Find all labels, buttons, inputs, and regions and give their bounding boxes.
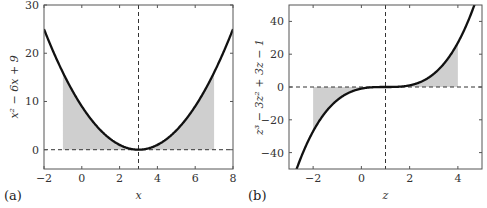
x-tick-label: 4 [454,172,461,185]
panel-label: (a) [4,188,22,203]
panel-a-plot: −2024680102030xx² − 6x + 9(a) [4,0,237,203]
x-tick-label: 8 [230,172,237,185]
y-axis-label: x² − 6x + 9 [8,55,21,118]
y-axis-label: z³ − 3z² + 3z − 1 [253,39,266,136]
y-tick-label: 20 [270,48,284,61]
x-tick-label: −2 [305,172,321,185]
y-tick-label: 0 [277,81,284,94]
x-axis-label: x [135,189,142,202]
panel-b-plot: −2024−40−2002040zz³ − 3z² + 3z − 1(b) [248,0,482,203]
figure: −2024680102030xx² − 6x + 9(a) −2024−40−2… [0,0,487,208]
y-tick-label: 40 [270,15,284,28]
y-tick-label: 20 [25,47,39,60]
y-tick-label: 30 [25,0,39,12]
x-tick-label: −2 [36,172,52,185]
x-tick-label: 2 [116,172,123,185]
y-tick-label: 0 [32,144,39,157]
y-tick-label: 10 [25,95,39,108]
x-tick-label: 4 [154,172,161,185]
x-axis-label: z [382,189,389,202]
x-tick-label: 0 [358,172,365,185]
x-tick-label: 0 [78,172,85,185]
y-tick-label: −40 [261,147,284,160]
x-tick-label: 2 [406,172,413,185]
panel-label: (b) [248,188,266,203]
x-tick-label: 6 [192,172,199,185]
